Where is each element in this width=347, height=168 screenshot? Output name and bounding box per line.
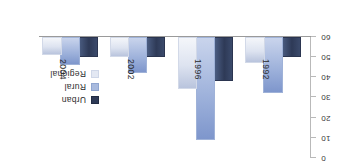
value-axis-line <box>310 37 311 158</box>
legend-item-rural[interactable]: Rural <box>7 81 99 93</box>
value-axis-tick <box>311 56 316 57</box>
legend-swatch-icon <box>91 70 99 78</box>
legend-item-label: Regional <box>50 69 86 79</box>
chart-legend: UrbanRuralRegional <box>7 67 99 106</box>
value-axis-tick <box>311 137 316 138</box>
value-axis-tick <box>311 36 316 37</box>
legend-swatch-icon <box>91 96 99 104</box>
value-axis-tick <box>311 76 316 77</box>
bar-chart: 0102030405060 1992199620022004 UrbanRura… <box>0 0 347 168</box>
category-label-1996: 1996 <box>193 34 203 80</box>
bar-urban-2004 <box>78 37 98 57</box>
value-axis-tick-label: 60 <box>321 33 345 41</box>
category-label-1992: 1992 <box>261 34 271 80</box>
value-axis-tick <box>311 117 316 118</box>
legend-item-label: Urban <box>61 95 86 105</box>
bar-urban-2002 <box>146 37 166 57</box>
legend-item-regional[interactable]: Regional <box>7 68 99 80</box>
value-axis-tick-label: 10 <box>321 134 345 142</box>
value-axis-tick <box>311 157 316 158</box>
value-axis-tick-label: 50 <box>321 53 345 61</box>
value-axis-tick-label: 0 <box>321 154 345 162</box>
bar-urban-1992 <box>281 37 301 57</box>
bar-urban-1996 <box>214 37 234 81</box>
legend-swatch-icon <box>91 83 99 91</box>
category-label-2002: 2002 <box>126 34 136 80</box>
value-axis-tick-label: 20 <box>321 114 345 122</box>
legend-item-label: Rural <box>64 82 86 92</box>
value-axis-tick <box>311 97 316 98</box>
rotated-figure-container: 0102030405060 1992199620022004 UrbanRura… <box>0 0 347 168</box>
value-axis-tick-label: 40 <box>321 73 345 81</box>
value-axis-tick-label: 30 <box>321 94 345 102</box>
legend-item-urban[interactable]: Urban <box>7 94 99 106</box>
